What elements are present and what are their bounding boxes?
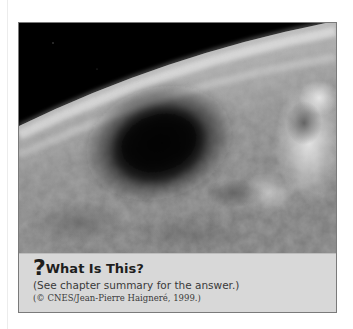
page-margin-rule — [7, 0, 8, 329]
figure-caption: ? What Is This? (See chapter summary for… — [19, 253, 336, 312]
caption-title: What Is This? — [46, 261, 144, 277]
question-mark-icon: ? — [33, 258, 45, 277]
earth-eclipse-photo — [19, 23, 336, 253]
earth-photo-graphic — [19, 23, 336, 253]
figure-box: ? What Is This? (See chapter summary for… — [18, 22, 337, 313]
caption-subtitle: (See chapter summary for the answer.) — [33, 278, 336, 292]
caption-title-row: ? What Is This? — [33, 258, 336, 277]
photo-credit: (© CNES/Jean-Pierre Haigneré, 1999.) — [33, 292, 336, 305]
